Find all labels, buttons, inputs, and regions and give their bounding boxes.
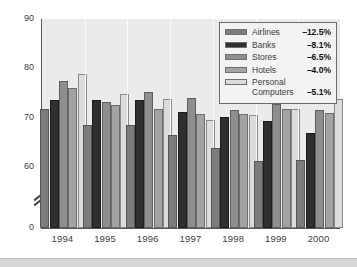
- bar-airlines-1996: [126, 125, 135, 228]
- legend-label: Hotels: [252, 65, 300, 75]
- chart-legend: Airlines–12.5%Banks–8.1%Stores–6.5%Hotel…: [219, 22, 337, 104]
- y-axis-tick-label: 90: [8, 13, 34, 23]
- bar-personal-computers-2000: [334, 99, 343, 228]
- legend-item-airlines: Airlines–12.5%: [225, 27, 331, 38]
- legend-item-personal-computers: Personal Computers–5.1%: [225, 77, 331, 97]
- y-axis-tick-label: 0: [8, 222, 34, 232]
- legend-change-value: –12.5%: [300, 27, 331, 37]
- bar-stores-1994: [59, 81, 68, 228]
- footer-divider: [0, 258, 357, 267]
- legend-change-value: –5.1%: [300, 87, 331, 97]
- bar-hotels-1997: [196, 114, 205, 228]
- bar-airlines-1998: [211, 148, 220, 228]
- bar-banks-1994: [50, 100, 59, 228]
- bar-banks-1998: [220, 117, 229, 228]
- y-axis-tick-label: 70: [8, 112, 34, 122]
- x-axis-label-1995: 1995: [82, 233, 128, 244]
- bar-banks-1997: [178, 112, 187, 228]
- bar-airlines-1995: [83, 125, 92, 228]
- legend-item-banks: Banks–8.1%: [225, 40, 331, 51]
- legend-swatch-icon: [225, 42, 247, 48]
- y-axis-tick-label: 80: [8, 62, 34, 72]
- bar-airlines-1999: [254, 161, 263, 228]
- bar-stores-1999: [272, 104, 281, 228]
- legend-swatch-icon: [225, 79, 247, 85]
- legend-label: Stores: [252, 52, 300, 62]
- bar-hotels-1996: [154, 109, 163, 228]
- bar-airlines-1994: [40, 109, 49, 228]
- bar-hotels-1998: [239, 114, 248, 228]
- bar-stores-1997: [187, 98, 196, 228]
- legend-label: Airlines: [252, 27, 300, 37]
- bar-hotels-1995: [111, 105, 120, 228]
- legend-swatch-icon: [225, 67, 247, 73]
- x-axis-label-1999: 1999: [253, 233, 299, 244]
- legend-swatch-icon: [225, 54, 247, 60]
- bar-hotels-2000: [325, 113, 334, 228]
- bar-hotels-1999: [282, 109, 291, 228]
- bar-stores-2000: [315, 110, 324, 228]
- bar-stores-1995: [102, 102, 111, 228]
- bar-banks-1996: [135, 100, 144, 228]
- legend-change-value: –4.0%: [300, 65, 331, 75]
- legend-item-stores: Stores–6.5%: [225, 52, 331, 63]
- x-axis-label-1998: 1998: [210, 233, 256, 244]
- bar-airlines-1997: [168, 135, 177, 228]
- legend-swatch-icon: [225, 29, 247, 35]
- bar-banks-1995: [92, 100, 101, 228]
- legend-change-value: –8.1%: [300, 40, 331, 50]
- bar-stores-1996: [144, 92, 153, 228]
- x-axis-label-1996: 1996: [125, 233, 171, 244]
- legend-change-value: –6.5%: [300, 52, 331, 62]
- legend-label: Banks: [252, 40, 300, 50]
- bar-banks-2000: [306, 133, 315, 228]
- x-axis-label-1997: 1997: [168, 233, 214, 244]
- x-axis-label-2000: 2000: [296, 233, 342, 244]
- bar-stores-1998: [230, 110, 239, 228]
- legend-item-hotels: Hotels–4.0%: [225, 65, 331, 76]
- y-axis-tick-label: 60: [8, 161, 34, 171]
- bar-airlines-2000: [296, 160, 305, 228]
- bar-hotels-1994: [68, 88, 77, 228]
- x-axis-label-1994: 1994: [39, 233, 85, 244]
- bar-banks-1999: [263, 121, 272, 228]
- legend-label: Personal Computers: [252, 77, 300, 97]
